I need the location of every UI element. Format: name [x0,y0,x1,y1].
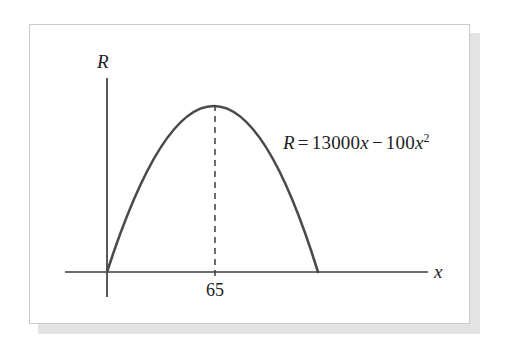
equation-exponent: 2 [424,132,430,145]
equation-quadratic-coefficient: 100 [386,132,415,153]
x-axis-label: x [434,262,442,281]
equation-quadratic-variable: x [415,132,424,153]
equation-annotation: R=13000x−100x2 [283,133,430,152]
equation-linear-variable: x [360,132,369,153]
y-axis-label: R [97,52,109,71]
equation-lhs: R [283,132,295,153]
equation-equals-sign: = [295,132,312,153]
vertex-tick-label: 65 [206,281,224,299]
equation-minus-sign: − [369,132,386,153]
parabola-plot [0,0,505,358]
parabola-curve [107,106,318,272]
equation-linear-coefficient: 13000 [312,132,361,153]
